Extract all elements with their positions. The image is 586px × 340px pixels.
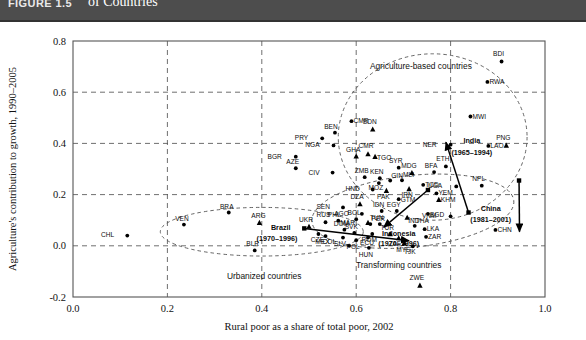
data-point-label: BRA [220, 203, 234, 210]
cluster-label-urbanized: Urbanized countries [227, 271, 301, 281]
data-point-marker [370, 126, 375, 131]
data-point-label: NER [423, 141, 437, 148]
trajectory-period-brazil: (1970–1996) [257, 234, 298, 243]
data-point-label: MWI [472, 113, 486, 120]
data-point-marker [432, 170, 436, 174]
data-point-label: BEN [324, 123, 338, 130]
trajectory-start-marker-brazil [302, 226, 306, 230]
data-point-label: BGR [267, 153, 282, 160]
data-point-marker [449, 214, 453, 218]
data-point-marker [444, 165, 448, 169]
data-point-label: VNM [422, 212, 437, 219]
data-point-marker [227, 211, 231, 215]
data-point-label: PNG [496, 134, 510, 141]
data-point-label: AZE [286, 158, 299, 165]
data-point-marker [125, 234, 129, 238]
data-point-marker [320, 136, 324, 140]
x-tick-label: 0.2 [161, 303, 174, 314]
cluster-label-agriculture-based: Agriculture-based countries [370, 61, 472, 71]
data-point-marker [341, 206, 345, 210]
data-point-label: SEN [316, 203, 330, 210]
data-point-label: BOL [348, 209, 362, 216]
data-point-marker [378, 176, 382, 180]
data-point-label: GIN [391, 172, 403, 179]
data-point-label: TUN [370, 214, 384, 221]
data-point-label: KEN [370, 168, 384, 175]
data-point-marker [354, 153, 359, 158]
x-tick-label: 0.4 [255, 303, 269, 314]
data-point-label: BFA [425, 162, 438, 169]
data-point-marker [380, 209, 384, 213]
data-point-marker [306, 224, 311, 229]
data-point-marker [253, 249, 257, 253]
data-point-label: LKA [427, 225, 440, 232]
data-point-label: KHM [441, 196, 456, 203]
data-point-marker [363, 175, 367, 179]
data-point-marker [395, 209, 399, 213]
data-point-marker [324, 220, 328, 224]
data-point-label: IDN [373, 201, 385, 208]
trajectory-start-marker-india [466, 210, 470, 214]
data-point-label: MEX [315, 238, 330, 245]
data-point-label: PAK [377, 193, 390, 200]
data-point-marker [331, 171, 335, 175]
data-point-marker [257, 220, 262, 225]
data-point-label: ZWE [410, 274, 425, 281]
data-point-label: ZMB [355, 167, 370, 174]
x-tick-label: 0.6 [350, 303, 363, 314]
data-point-label: NPL [472, 175, 485, 182]
y-tick-label: 0.8 [53, 36, 66, 47]
data-point-label: BDI [493, 50, 504, 57]
data-point-label: LAO [490, 142, 503, 149]
data-point-label: CHL [101, 231, 115, 238]
data-point-marker [365, 151, 370, 156]
x-tick-label: 0.8 [444, 303, 457, 314]
data-point-marker [413, 224, 417, 228]
data-point-marker [449, 143, 453, 147]
data-point-label: TUR [380, 224, 394, 231]
data-point-label: HUN [359, 251, 374, 258]
trajectory-label-brazil: Brazil [271, 223, 291, 232]
data-point-marker [371, 188, 375, 192]
trajectory-start-marker-china [517, 178, 521, 182]
trajectory-label-india: India [463, 136, 481, 145]
data-point-label: BLR [246, 240, 259, 247]
y-axis-title: Agriculture's contribution to growth, 19… [7, 67, 18, 271]
data-point-label: MAR [340, 219, 355, 226]
data-point-label: RWA [489, 78, 505, 85]
data-point-marker [454, 185, 458, 189]
data-point-marker [417, 283, 422, 288]
data-point-label: GTM [401, 196, 416, 203]
data-point-marker [378, 222, 382, 226]
trajectory-period-india: (1965–1994) [451, 148, 492, 157]
y-tick-label: -0.2 [49, 292, 66, 303]
chart-canvas: India(1965–1994)China(1981–2001)Indonesi… [0, 22, 586, 340]
data-point-label: DZA [350, 193, 364, 200]
data-point-marker [332, 144, 336, 148]
data-point-marker [360, 212, 364, 216]
data-point-marker [333, 131, 337, 135]
figure-title-line2: of Countries [88, 0, 158, 9]
data-point-label: ROM [362, 236, 377, 243]
scatter-chart: India(1965–1994)China(1981–2001)Indonesi… [0, 22, 586, 340]
x-tick-label: 0.0 [66, 303, 79, 314]
data-point-label: CIV [309, 169, 321, 176]
data-point-marker [388, 179, 392, 183]
figure-title: Agriculture's Contribution to Growth and… [88, 0, 418, 9]
data-point-label: NGA [305, 141, 320, 148]
x-tick-label: 1.0 [538, 303, 551, 314]
data-point-label: ARG [251, 212, 265, 219]
data-point-label: VEN [175, 215, 189, 222]
data-point-label: POL [347, 243, 361, 250]
data-point-label: TJK [404, 248, 416, 255]
data-point-marker [354, 238, 358, 242]
data-point-marker [294, 166, 298, 170]
data-point-label: AGO [334, 210, 349, 217]
x-axis-title: Rural poor as a share of total poor, 200… [225, 321, 394, 332]
data-point-marker [500, 60, 504, 64]
figure-number: FIGURE 1.5 [8, 0, 72, 9]
data-point-marker [480, 184, 484, 188]
data-point-label: UKR [299, 216, 313, 223]
data-point-marker [352, 231, 356, 235]
y-tick-label: 0.0 [53, 240, 66, 251]
